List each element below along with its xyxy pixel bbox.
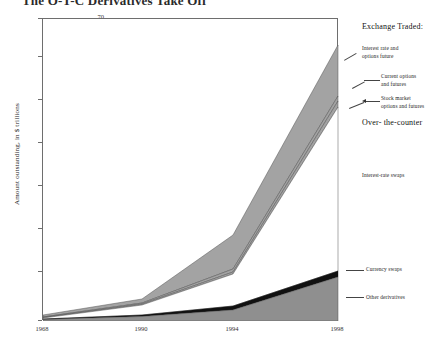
legend-header-over-the-counter: Over- the-counter [362, 118, 422, 127]
legend-label-currency-options-and-futures-line2: and futures [381, 81, 406, 89]
chart-figure: The O-T-C Derivatives Take Off 70 60 50 … [0, 0, 448, 343]
legend-label-other-derivatives: Other derivatives [366, 294, 405, 302]
legend-label-currency-swaps: Currency swaps [366, 266, 402, 274]
leader-arrow-stock-market [362, 99, 366, 103]
leader-line-stock-market-diag [349, 102, 364, 109]
legend-label-interest-rate-swaps: Interest-rate swaps [362, 172, 404, 180]
legend-label-stock-market-options-and-futures-line2: options and futures [381, 103, 424, 111]
leader-line-currency-options [364, 80, 380, 81]
legend-header-exchange-traded: Exchange Traded: [362, 22, 423, 31]
x-tick-1990: 1990 [121, 325, 161, 332]
y-axis-label: Amount outstanding, in $ trillions [13, 84, 21, 224]
legend-label-interest-rate-and-options-future-line1: Interest rate and [362, 45, 398, 53]
leader-line-stock-market [364, 101, 380, 102]
stacked-area-series [43, 19, 339, 321]
y-tickmark-0 [38, 320, 42, 321]
leader-line-interest-rate-options [344, 53, 357, 61]
legend-label-interest-rate-and-options-future-line2: options future [362, 53, 394, 61]
x-tick-1994: 1994 [212, 325, 252, 332]
x-tick-1968: 1968 [22, 325, 62, 332]
leader-line-currency-options-diag [352, 81, 365, 88]
plot-area [42, 18, 338, 320]
chart-title: The O-T-C Derivatives Take Off [22, 0, 322, 5]
legend-label-stock-market-options-and-futures-line1: Stock market [381, 95, 411, 103]
legend-label-currency-options-and-futures-line1: Current options [381, 73, 416, 81]
x-tick-1998: 1998 [317, 325, 357, 332]
leader-line-currency-swaps [346, 270, 364, 271]
leader-line-other-derivatives [346, 297, 364, 298]
